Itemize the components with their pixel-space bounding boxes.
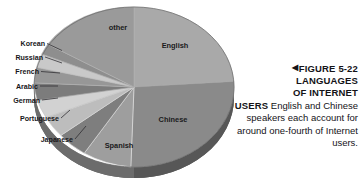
- pie-label-french: French: [15, 68, 39, 76]
- pie-label-portuguese: Portuguese: [20, 115, 59, 123]
- pie-label-chinese: Chinese: [159, 115, 188, 124]
- figure-5-22: Korean Russian French Arabic German Port…: [0, 0, 361, 188]
- figure-caption: ◀FIGURE 5-22 LANGUAGES OF INTERNET USERS…: [228, 62, 358, 149]
- figure-title-line-1: LANGUAGES: [296, 75, 358, 86]
- pie-label-korean: Korean: [21, 40, 45, 48]
- figure-title-line-3: USERS: [235, 100, 268, 111]
- pie-label-other: other: [109, 23, 128, 32]
- pie-chart-svg: Korean Russian French Arabic German Port…: [0, 0, 240, 188]
- pie-slice-chinese[interactable]: [131, 81, 234, 167]
- figure-number: FIGURE 5-22: [299, 63, 358, 74]
- pie-chart: Korean Russian French Arabic German Port…: [0, 0, 240, 188]
- pie-label-spanish: Spanish: [105, 141, 134, 150]
- left-triangle-icon: ◀: [292, 63, 298, 72]
- figure-title-line-2: OF INTERNET: [293, 87, 358, 98]
- pie-label-japanese: Japanese: [41, 136, 73, 144]
- pie-label-english: English: [162, 41, 189, 50]
- figure-caption-head: ◀FIGURE 5-22: [292, 63, 358, 74]
- pie-label-arabic: Arabic: [16, 83, 38, 91]
- pie-label-german: German: [13, 97, 40, 105]
- pie-label-russian: Russian: [15, 54, 43, 62]
